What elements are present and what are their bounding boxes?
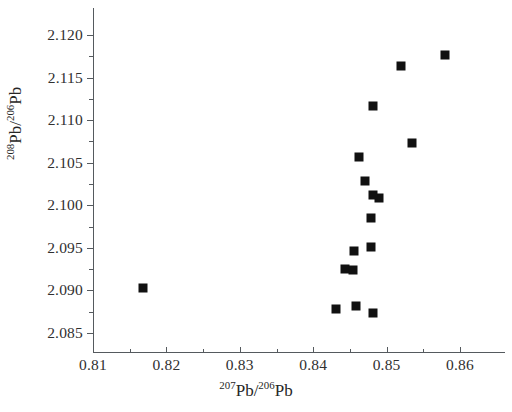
x-tick-label: 0.83 bbox=[226, 356, 254, 374]
data-point bbox=[368, 309, 377, 318]
x-axis-title: 207Pb/206Pb bbox=[0, 381, 512, 401]
data-point bbox=[367, 214, 376, 223]
y-tick-label: 2.100 bbox=[47, 196, 83, 214]
x-tick-label: 0.81 bbox=[79, 356, 107, 374]
data-point bbox=[360, 177, 369, 186]
y-tick-label: 2.095 bbox=[47, 239, 83, 257]
data-point bbox=[138, 283, 147, 292]
data-point bbox=[408, 139, 417, 148]
data-point bbox=[348, 265, 357, 274]
data-point bbox=[350, 247, 359, 256]
data-point bbox=[355, 152, 364, 161]
data-point bbox=[351, 301, 360, 310]
y-axis-title-mid: Pb/ bbox=[6, 121, 25, 144]
y-tick-label: 2.115 bbox=[48, 69, 83, 87]
data-point bbox=[396, 61, 405, 70]
y-tick-label: 2.090 bbox=[47, 281, 83, 299]
y-axis-title-end: Pb bbox=[6, 87, 25, 105]
y-tick-label: 2.105 bbox=[47, 154, 83, 172]
x-tick-label: 0.86 bbox=[446, 356, 474, 374]
y-tick-label: 2.085 bbox=[47, 324, 83, 342]
x-axis-title-sup-207: 207 bbox=[219, 379, 235, 391]
y-axis-title-sup-206: 206 bbox=[4, 105, 16, 121]
data-point bbox=[367, 243, 376, 252]
y-axis-title-sup-208: 208 bbox=[4, 144, 16, 160]
x-tick-label: 0.84 bbox=[299, 356, 327, 374]
y-tick-label: 2.120 bbox=[47, 26, 83, 44]
y-tick-label: 2.110 bbox=[48, 111, 83, 129]
x-axis-title-sup-206: 206 bbox=[258, 379, 274, 391]
x-tick-label: 0.82 bbox=[152, 356, 180, 374]
x-axis-title-end: Pb bbox=[275, 381, 293, 400]
y-axis-title: 208Pb/206Pb bbox=[6, 120, 26, 160]
data-point bbox=[369, 101, 378, 110]
data-point bbox=[368, 191, 377, 200]
data-point bbox=[441, 51, 450, 60]
y-axis-ticks: 2.0852.0902.0952.1002.1052.1102.1152.120 bbox=[0, 0, 93, 360]
x-tick-label: 0.85 bbox=[373, 356, 401, 374]
plot-data-area bbox=[93, 8, 505, 352]
scatter-plot-figure: 2.0852.0902.0952.1002.1052.1102.1152.120… bbox=[0, 0, 512, 412]
x-axis-title-mid: Pb/ bbox=[236, 381, 259, 400]
data-point bbox=[331, 305, 340, 314]
